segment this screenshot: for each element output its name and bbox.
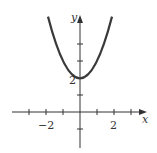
x-tick-label-2: 2 (110, 119, 117, 132)
y-axis-arrow-icon (77, 15, 83, 23)
x-tick-label-neg2: −2 (38, 119, 54, 132)
x-axis-label: x (142, 113, 149, 126)
y-tick-label-2: 2 (69, 74, 76, 87)
y-axis-label: y (70, 11, 78, 24)
parabola-chart: −2 2 2 x y (0, 0, 157, 153)
